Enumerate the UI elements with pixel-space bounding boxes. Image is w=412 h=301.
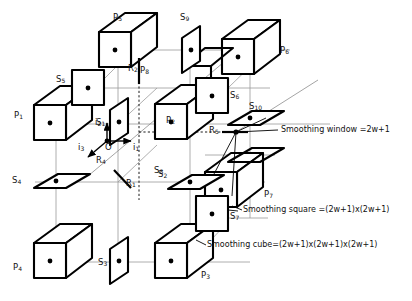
label-origin: O	[105, 143, 112, 152]
square-S6	[196, 78, 228, 113]
label-P7: P7	[264, 190, 273, 199]
annotation-smoothing-square: Smoothing square =(2w+1)x(2w+1)	[243, 206, 389, 214]
label-R4: R4	[96, 156, 106, 165]
label-S5: S5	[56, 75, 65, 84]
label-axis-i3: i3	[78, 143, 84, 152]
label-R1: R1	[126, 179, 136, 188]
square-S5	[72, 70, 104, 105]
label-P4: P4	[13, 263, 22, 272]
label-R2: R2	[128, 64, 138, 73]
square-S7	[196, 196, 228, 231]
label-axis-i1: i1	[133, 143, 139, 152]
label-P2: P2	[166, 116, 175, 125]
label-S9: S9	[180, 13, 189, 22]
figure-canvas: P1 P2 P3 P4 P5 P6 P7 P8 S1 S2 S3 S4 S5 S…	[0, 0, 412, 301]
lattice-diagram-svg	[0, 0, 412, 301]
label-S7: S7	[230, 212, 239, 221]
square-S1	[110, 98, 128, 145]
label-S4: S4	[12, 176, 21, 185]
label-S8: S8	[154, 166, 163, 175]
cube-P4	[34, 224, 92, 278]
label-P3: P3	[201, 271, 210, 280]
label-P6: P6	[280, 46, 289, 55]
label-P5: P5	[113, 13, 122, 22]
square-S3	[110, 237, 128, 284]
label-S3: S3	[98, 258, 107, 267]
label-P1: P1	[14, 111, 23, 120]
label-P8: P8	[140, 66, 149, 75]
label-S10: S10	[249, 102, 262, 111]
annotation-smoothing-window: Smoothing window =2w+1	[281, 126, 390, 134]
square-S4	[34, 174, 90, 188]
label-axis-i2: i2	[95, 118, 101, 127]
label-R5: R5	[209, 126, 219, 135]
label-S6: S6	[230, 91, 239, 100]
cube-P5	[99, 13, 157, 67]
annotation-smoothing-cube: Smoothing cube=(2w+1)x(2w+1)x(2w+1)	[207, 241, 377, 249]
